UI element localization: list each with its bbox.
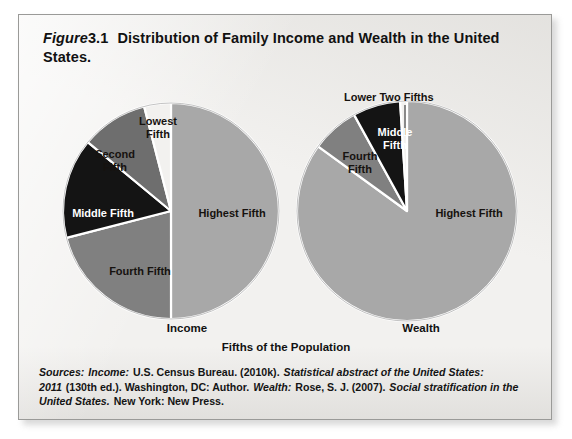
source-income-text-2: (130th ed.). Washington, DC: Author. [66, 381, 249, 393]
callout-leader-line [398, 105, 412, 135]
plot-area: Lower Two Fifths Highest Fifth Fourth Fi… [19, 15, 552, 420]
source-lead: Sources: [39, 366, 84, 378]
pie-slice [171, 103, 279, 319]
pie-chart-income [57, 101, 287, 323]
source-wealth-label: Wealth: [253, 381, 291, 393]
axis-caption: Fifths of the Population [19, 341, 552, 353]
figure-card: Figure3.1Distribution of Family Income a… [18, 14, 552, 420]
source-note: Sources:Income:U.S. Census Bureau. (2010… [39, 365, 539, 409]
callout-lower-two-fifths: Lower Two Fifths [344, 91, 434, 103]
source-wealth-text-1: Rose, S. J. (2007). [295, 381, 385, 393]
source-wealth-text-2: New York: New Press. [114, 395, 224, 407]
page-canvas: Figure3.1Distribution of Family Income a… [0, 0, 572, 439]
source-income-text-1: U.S. Census Bureau. (2010k). [133, 366, 280, 378]
source-income-label: Income: [88, 366, 129, 378]
group-caption-wealth: Wealth [366, 322, 476, 334]
group-caption-income: Income [132, 322, 242, 334]
